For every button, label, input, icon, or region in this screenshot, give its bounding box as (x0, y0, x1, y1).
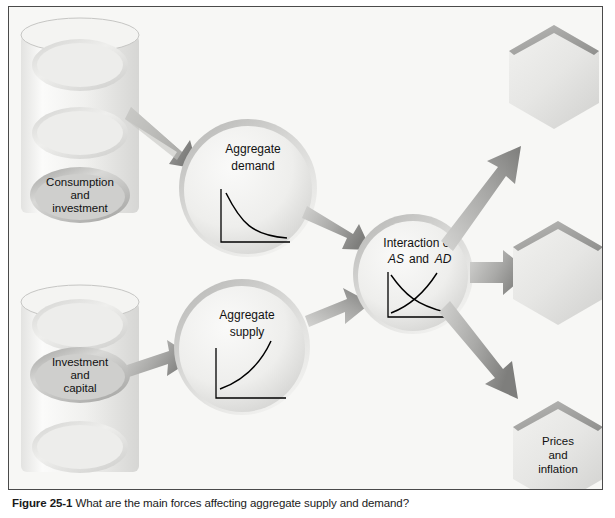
diagram-panel: Consumption and investment Investment an… (8, 6, 603, 490)
output-bottom-line1: Prices (542, 435, 574, 447)
output-bottom-line3: inflation (538, 463, 578, 475)
ad-label-line2: demand (231, 159, 274, 173)
input-label2-line3: capital (63, 382, 96, 394)
input-label2-line1: Investment (52, 356, 109, 368)
output-hexagon-top (509, 25, 599, 129)
interaction-label-as: AS (387, 252, 404, 266)
input-label-line2: and (70, 189, 89, 201)
figure-caption-label: Figure 25-1 (12, 497, 72, 509)
diagram-canvas: Consumption and investment Investment an… (9, 7, 602, 489)
input-stack-investment: Investment and capital (21, 285, 139, 473)
interaction-label-line1: Interaction of (383, 236, 453, 250)
input-stack-consumption: Consumption and investment (21, 18, 139, 223)
figure-caption-text: What are the main forces affecting aggre… (75, 497, 409, 509)
as-label-line2: supply (230, 325, 265, 339)
process-aggregate-demand: Aggregate demand (179, 119, 317, 257)
process-aggregate-supply: Aggregate supply (174, 279, 310, 415)
input-label-line3: investment (52, 202, 108, 214)
arrow-ad-to-interaction (302, 206, 371, 250)
input-label-line1: Consumption (46, 176, 114, 188)
output-hexagon-bottom: Prices and inflation (513, 401, 602, 489)
output-bottom-line2: and (548, 449, 567, 461)
arrow-interaction-to-output-top (441, 146, 521, 251)
input-label2-line2: and (70, 369, 89, 381)
flow-diagram: Consumption and investment Investment an… (9, 7, 602, 489)
output-hexagon-middle (513, 221, 602, 325)
interaction-label-ad: AD (434, 252, 452, 266)
ad-label-line1: Aggregate (225, 142, 281, 156)
as-label-line1: Aggregate (219, 308, 275, 322)
interaction-label-and: and (409, 252, 429, 266)
figure-caption: Figure 25-1 What are the main forces aff… (12, 497, 612, 509)
arrow-interaction-to-output-bottom (439, 301, 518, 399)
figure-root: Consumption and investment Investment an… (0, 0, 615, 518)
